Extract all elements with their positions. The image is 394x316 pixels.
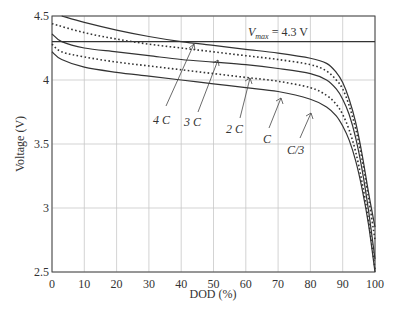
annotation-3c: 3 C bbox=[183, 115, 202, 129]
x-tick-label: 70 bbox=[272, 277, 284, 291]
annotation-c: C bbox=[263, 132, 272, 146]
x-tick-label: 10 bbox=[78, 277, 90, 291]
y-tick-label: 4.5 bbox=[34, 9, 49, 23]
annotation-2c: 2 C bbox=[226, 122, 244, 136]
x-tick-label: 60 bbox=[240, 277, 252, 291]
y-tick-label: 2.5 bbox=[34, 265, 49, 279]
y-axis-label: Voltage (V) bbox=[13, 116, 27, 172]
x-tick-label: 100 bbox=[366, 277, 384, 291]
y-tick-label: 4 bbox=[43, 73, 49, 87]
x-axis-label: DOD (%) bbox=[190, 287, 237, 301]
series-4c bbox=[62, 16, 375, 227]
y-tick-label: 3.5 bbox=[34, 137, 49, 151]
x-tick-label: 80 bbox=[304, 277, 316, 291]
y-axis-ticks: 4.543.532.5 bbox=[34, 9, 49, 279]
annotation-4c: 4 C bbox=[153, 113, 171, 127]
vmax-label: Vmax = 4.3 V bbox=[248, 25, 308, 41]
x-tick-label: 30 bbox=[143, 277, 155, 291]
grid-lines bbox=[52, 16, 375, 272]
y-tick-label: 3 bbox=[43, 201, 49, 215]
annotation-c-over-3: C/3 bbox=[287, 143, 304, 157]
voltage-dod-chart: 0102030405060708090100 4.543.532.5 Vmax … bbox=[0, 0, 394, 316]
x-tick-label: 40 bbox=[175, 277, 187, 291]
x-tick-label: 20 bbox=[111, 277, 123, 291]
x-tick-label: 0 bbox=[49, 277, 55, 291]
x-tick-label: 90 bbox=[337, 277, 349, 291]
